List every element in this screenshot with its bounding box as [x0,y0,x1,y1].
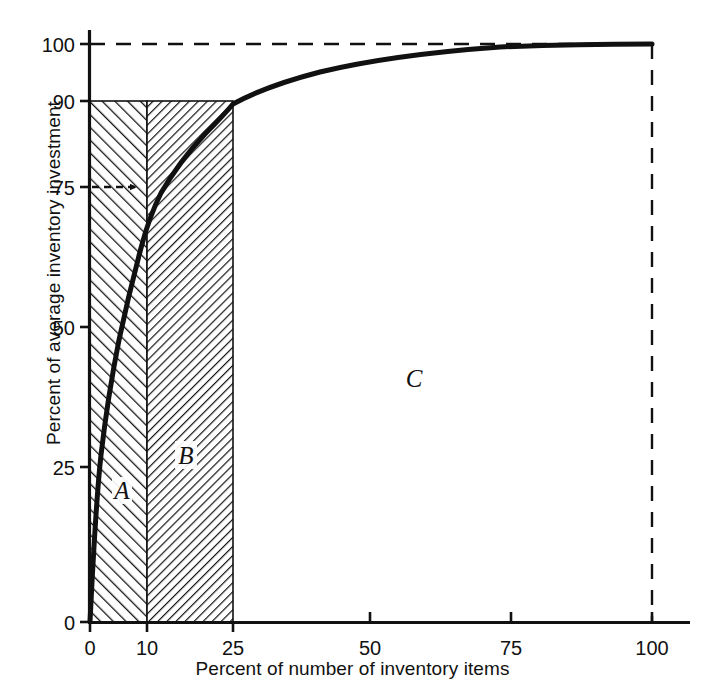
region-a [90,101,147,622]
x-tick-label-25: 25 [222,637,244,659]
x-tick-label-10: 10 [136,637,158,659]
region-b-text: B [178,442,193,469]
x-tick-label-75: 75 [500,637,522,659]
x-axis-title: Percent of number of inventory items [0,658,705,680]
x-tick-label-0: 0 [84,637,95,659]
region-c-text: C [406,365,423,392]
region-label-a: A [112,477,132,504]
x-tick-label-100: 100 [635,637,668,659]
y-tick-label-0: 0 [64,612,75,634]
region-b [147,101,233,622]
chart-canvas: 100 90 75 50 25 0 0 10 25 50 75 100 A B … [0,0,705,690]
x-tick-label-50: 50 [359,637,381,659]
y-axis-title: Percent of average inventory investment [43,53,65,493]
region-label-b: B [175,441,197,469]
abc-analysis-chart: 100 90 75 50 25 0 0 10 25 50 75 100 A B … [0,0,705,690]
region-a-text: A [112,477,130,504]
